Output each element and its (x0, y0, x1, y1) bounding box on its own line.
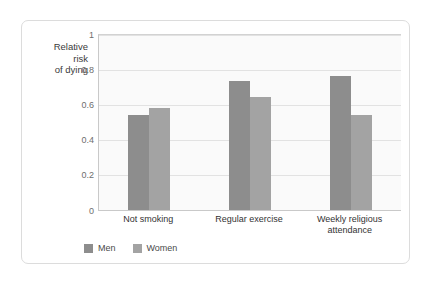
legend-swatch-icon (84, 244, 93, 253)
x-axis-label: Regular exercise (199, 214, 300, 225)
y-tick-label: 0.6 (81, 100, 94, 110)
bar-women-2 (351, 115, 372, 210)
bar-women-1 (250, 97, 271, 210)
legend-entry-men[interactable]: Men (84, 243, 116, 253)
gridline (99, 35, 401, 36)
chart-card: Relative risk of dying 00.20.40.60.81 No… (21, 20, 410, 264)
y-tick-label: 0.4 (81, 135, 94, 145)
bar-men-1 (229, 81, 250, 210)
legend-entry-women[interactable]: Women (133, 243, 178, 253)
y-tick-label: 0.8 (81, 65, 94, 75)
x-axis-label: Not smoking (98, 214, 199, 225)
legend-swatch-icon (133, 244, 142, 253)
y-tick-label: 0 (89, 206, 94, 216)
legend-label: Women (147, 243, 178, 253)
bar-women-0 (149, 108, 170, 210)
bar-men-0 (128, 115, 149, 210)
plot-area: 00.20.40.60.81 (98, 34, 401, 211)
legend-label: Men (98, 243, 116, 253)
y-axis-title: Relative risk of dying (30, 41, 88, 76)
y-tick-label: 1 (89, 30, 94, 40)
bar-men-2 (330, 76, 351, 210)
y-tick-label: 0.2 (81, 170, 94, 180)
gridline (99, 70, 401, 71)
chart-legend: MenWomen (84, 243, 177, 253)
x-axis-label: Weekly religious attendance (299, 214, 400, 236)
